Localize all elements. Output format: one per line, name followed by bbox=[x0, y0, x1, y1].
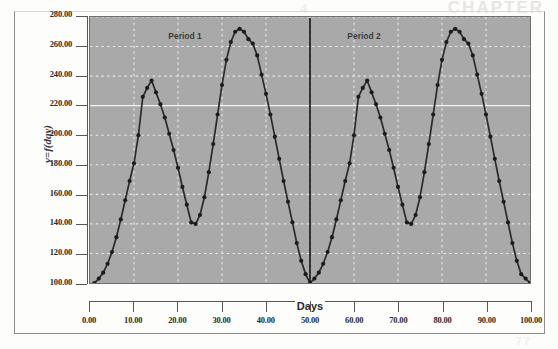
x-tick-mark bbox=[443, 301, 444, 312]
y-tick-mark bbox=[76, 165, 87, 166]
y-tick-label: 180.00 bbox=[50, 158, 72, 168]
x-tick-mark bbox=[89, 301, 90, 312]
x-tick-label: 90.00 bbox=[478, 315, 496, 325]
x-tick-label: 60.00 bbox=[345, 315, 363, 325]
x-tick-label: 40.00 bbox=[257, 315, 275, 325]
y-tick-mark bbox=[76, 105, 87, 106]
y-tick-mark bbox=[76, 135, 87, 136]
x-tick-mark bbox=[531, 301, 532, 312]
x-tick-label: 70.00 bbox=[389, 315, 407, 325]
x-tick-label: 100.00 bbox=[520, 315, 542, 325]
x-tick-mark bbox=[266, 301, 267, 312]
y-tick-label: 220.00 bbox=[50, 98, 72, 108]
y-tick-label: 140.00 bbox=[50, 217, 72, 227]
x-tick-mark bbox=[177, 301, 178, 312]
x-tick-mark bbox=[354, 301, 355, 312]
x-tick-label: 80.00 bbox=[434, 315, 452, 325]
y-tick-mark bbox=[76, 254, 87, 255]
x-axis: Days 0.0010.0020.0030.0040.0050.0060.007… bbox=[89, 301, 531, 313]
x-tick-label: 20.00 bbox=[168, 315, 186, 325]
y-tick-mark bbox=[76, 46, 87, 47]
y-tick-label: 100.00 bbox=[50, 277, 72, 287]
y-tick-label: 280.00 bbox=[50, 9, 72, 19]
x-tick-mark bbox=[133, 301, 134, 312]
plot-area: Period 1 Period 2 bbox=[89, 16, 531, 284]
period-divider-line bbox=[90, 17, 530, 283]
y-axis: 100.00120.00140.00160.00180.00200.00220.… bbox=[40, 16, 88, 284]
y-tick-label: 160.00 bbox=[50, 188, 72, 198]
x-tick-mark bbox=[398, 301, 399, 312]
annotation-period-1: Period 1 bbox=[168, 31, 202, 41]
x-tick-label: 30.00 bbox=[213, 315, 231, 325]
y-tick-label: 260.00 bbox=[50, 39, 72, 49]
y-tick-label: 120.00 bbox=[50, 247, 72, 257]
x-tick-mark bbox=[310, 301, 311, 312]
y-tick-mark bbox=[76, 224, 87, 225]
x-tick-mark bbox=[222, 301, 223, 312]
y-tick-mark bbox=[76, 284, 87, 285]
y-axis-spine bbox=[87, 16, 88, 284]
annotation-period-2: Period 2 bbox=[347, 31, 381, 41]
x-tick-label: 0.00 bbox=[82, 315, 96, 325]
ghost-page-number: 77 bbox=[516, 335, 532, 347]
y-tick-mark bbox=[76, 195, 87, 196]
x-tick-label: 50.00 bbox=[301, 315, 319, 325]
x-tick-label: 10.00 bbox=[124, 315, 142, 325]
y-axis-top-cap bbox=[76, 16, 87, 17]
y-tick-label: 200.00 bbox=[50, 128, 72, 138]
y-tick-mark bbox=[76, 76, 87, 77]
y-tick-label: 240.00 bbox=[50, 69, 72, 79]
x-tick-mark bbox=[487, 301, 488, 312]
